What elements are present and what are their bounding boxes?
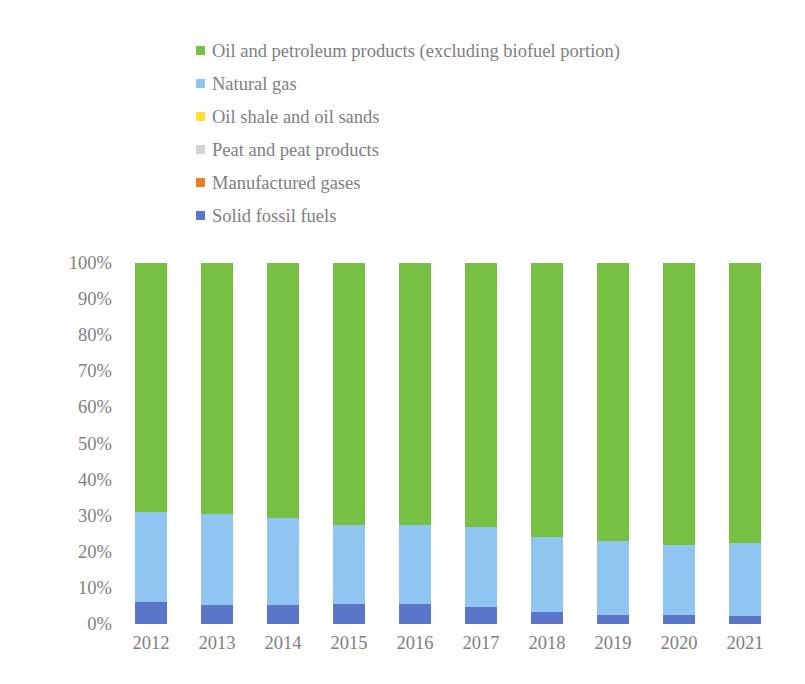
bar-segment[interactable] <box>465 263 497 527</box>
bar-2019[interactable] <box>597 263 629 624</box>
y-axis-tick-label: 30% <box>0 505 112 526</box>
bar-segment[interactable] <box>399 604 431 624</box>
bar-segment[interactable] <box>531 612 563 624</box>
legend-item[interactable]: Solid fossil fuels <box>196 199 716 232</box>
y-axis-tick-label: 100% <box>0 253 112 274</box>
legend-swatch-manufactured-gases <box>196 178 205 187</box>
stacked-bar-chart: Oil and petroleum products (excluding bi… <box>0 0 805 684</box>
bar-segment[interactable] <box>597 615 629 624</box>
bar-2016[interactable] <box>399 263 431 624</box>
y-axis-tick-label: 0% <box>0 614 112 635</box>
bar-segment[interactable] <box>729 616 761 624</box>
x-axis-tick-label: 2014 <box>250 633 316 654</box>
bar-segment[interactable] <box>663 615 695 624</box>
bar-segment[interactable] <box>201 263 233 514</box>
bar-2018[interactable] <box>531 263 563 624</box>
bar-segment[interactable] <box>729 263 761 543</box>
bar-2013[interactable] <box>201 263 233 624</box>
bar-segment[interactable] <box>267 605 299 624</box>
legend-item[interactable]: Manufactured gases <box>196 166 716 199</box>
y-axis-tick-label: 80% <box>0 325 112 346</box>
bar-segment[interactable] <box>399 525 431 604</box>
bar-segment[interactable] <box>135 512 167 602</box>
y-axis-tick-label: 60% <box>0 397 112 418</box>
bar-segment[interactable] <box>333 263 365 525</box>
y-axis-tick-label: 70% <box>0 361 112 382</box>
y-axis-tick-label: 50% <box>0 433 112 454</box>
x-axis-tick-label: 2015 <box>316 633 382 654</box>
x-axis-tick-label: 2020 <box>646 633 712 654</box>
x-axis-tick-label: 2016 <box>382 633 448 654</box>
y-axis-tick-label: 10% <box>0 577 112 598</box>
y-axis-tick-label: 20% <box>0 541 112 562</box>
legend-item-label: Oil and petroleum products (excluding bi… <box>212 41 620 61</box>
bar-segment[interactable] <box>531 537 563 611</box>
legend-item-label: Peat and peat products <box>212 140 379 160</box>
bar-segment[interactable] <box>597 263 629 541</box>
legend-swatch-oil-shale <box>196 112 205 121</box>
x-axis-tick-label: 2018 <box>514 633 580 654</box>
legend-item-label: Manufactured gases <box>212 173 360 193</box>
bar-segment[interactable] <box>663 545 695 615</box>
x-axis-tick-label: 2017 <box>448 633 514 654</box>
chart-legend: Oil and petroleum products (excluding bi… <box>196 34 716 232</box>
x-axis-tick-label: 2012 <box>118 633 184 654</box>
bar-segment[interactable] <box>201 514 233 605</box>
x-axis-tick-label: 2021 <box>712 633 778 654</box>
legend-item-label: Oil shale and oil sands <box>212 107 380 127</box>
legend-item-label: Solid fossil fuels <box>212 206 336 226</box>
x-axis: 2012201320142015201620172018201920202021 <box>118 633 778 667</box>
legend-item[interactable]: Natural gas <box>196 67 716 100</box>
bar-segment[interactable] <box>201 605 233 624</box>
legend-swatch-solid-fossil-fuels <box>196 211 205 220</box>
legend-swatch-peat <box>196 145 205 154</box>
bar-segment[interactable] <box>465 527 497 607</box>
legend-swatch-oil-petroleum <box>196 46 205 55</box>
bar-2014[interactable] <box>267 263 299 624</box>
bar-segment[interactable] <box>531 263 563 537</box>
legend-swatch-natural-gas <box>196 79 205 88</box>
bar-2015[interactable] <box>333 263 365 624</box>
bar-segment[interactable] <box>465 607 497 624</box>
bar-segment[interactable] <box>135 263 167 512</box>
legend-item-label: Natural gas <box>212 74 297 94</box>
x-axis-tick-label: 2019 <box>580 633 646 654</box>
bar-2020[interactable] <box>663 263 695 624</box>
bar-2017[interactable] <box>465 263 497 624</box>
bar-2012[interactable] <box>135 263 167 624</box>
bar-segment[interactable] <box>399 263 431 525</box>
legend-item[interactable]: Oil shale and oil sands <box>196 100 716 133</box>
plot-area <box>118 263 778 624</box>
y-axis-tick-label: 90% <box>0 289 112 310</box>
legend-item[interactable]: Peat and peat products <box>196 133 716 166</box>
y-axis-tick-label: 40% <box>0 469 112 490</box>
x-axis-tick-label: 2013 <box>184 633 250 654</box>
legend-item[interactable]: Oil and petroleum products (excluding bi… <box>196 34 716 67</box>
bar-segment[interactable] <box>729 543 761 616</box>
bar-segment[interactable] <box>267 518 299 606</box>
y-axis: 0%10%20%30%40%50%60%70%80%90%100% <box>0 250 112 640</box>
bar-segment[interactable] <box>333 525 365 604</box>
bar-segment[interactable] <box>333 604 365 624</box>
bar-segment[interactable] <box>267 263 299 518</box>
bar-2021[interactable] <box>729 263 761 624</box>
bar-segment[interactable] <box>597 541 629 615</box>
bar-segment[interactable] <box>135 602 167 624</box>
bar-segment[interactable] <box>663 263 695 545</box>
